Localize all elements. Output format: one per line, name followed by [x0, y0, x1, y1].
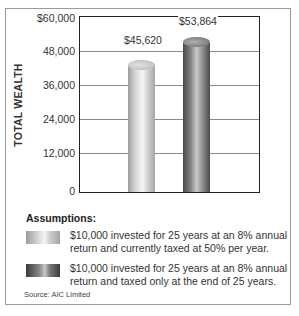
y-tick-36000: 36,000	[43, 79, 75, 91]
gridline	[80, 85, 259, 86]
legend-swatch-light	[26, 231, 60, 244]
legend-text-2: $10,000 invested for 25 years at an 8% a…	[70, 262, 299, 288]
plot-area	[79, 16, 260, 193]
bar-cap	[128, 60, 155, 70]
bar-value-label-1: $45,620	[123, 34, 163, 46]
source-note: Source: AIC Limited	[24, 290, 90, 299]
y-tick-48000: 48,000	[43, 45, 75, 57]
bar-value-label-2: $53,864	[178, 15, 218, 27]
y-tick-24000: 24,000	[43, 113, 75, 125]
gridline	[80, 153, 259, 154]
gridline	[80, 51, 259, 52]
legend-swatch-dark	[26, 264, 60, 277]
y-tick-60000: $60,000	[37, 12, 75, 24]
bar-cap	[183, 37, 210, 47]
legend-text-1: $10,000 invested for 25 years at an 8% a…	[70, 229, 299, 255]
gridline	[80, 119, 259, 120]
y-tick-0: 0	[69, 185, 75, 197]
bar-tax-deferred	[183, 42, 210, 192]
y-tick-12000: 12,000	[43, 147, 75, 159]
y-axis-label: TOTAL WEALTH	[12, 63, 24, 146]
legend-heading: Assumptions:	[26, 212, 96, 224]
bar-taxed-annually	[128, 65, 155, 192]
